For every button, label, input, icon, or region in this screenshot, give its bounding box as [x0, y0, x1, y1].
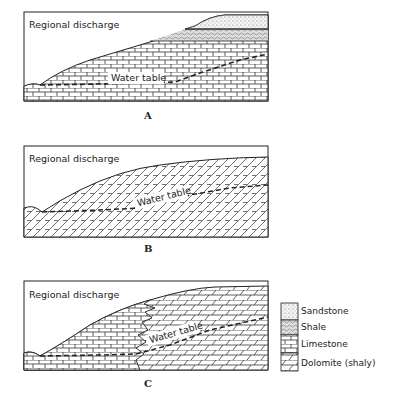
water-table-label: Water table [111, 72, 166, 83]
legend-dolomite: Dolomite (shaly) [301, 358, 375, 368]
regional-discharge-label: Regional discharge [29, 153, 119, 164]
panel-c: Water table Regional discharge C [24, 281, 268, 389]
panel-label: C [144, 378, 152, 389]
regional-discharge-label: Regional discharge [29, 19, 119, 30]
panel-a: Water table Regional discharge A [24, 12, 268, 121]
panel-label: A [143, 110, 152, 121]
regional-discharge-label: Regional discharge [29, 289, 119, 300]
geologic-cross-sections: Water table Regional discharge A Water t… [0, 0, 395, 401]
legend-shale: Shale [301, 322, 326, 332]
legend-limestone: Limestone [301, 339, 348, 349]
legend: Sandstone Shale Limestone Dolomite (shal… [281, 303, 375, 371]
panel-label: B [144, 243, 152, 254]
panel-b: Water table Regional discharge B [24, 146, 268, 254]
legend-sandstone: Sandstone [301, 306, 349, 316]
